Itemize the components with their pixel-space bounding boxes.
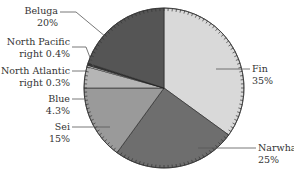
label-narwhal: Narwhal 25% — [258, 142, 294, 166]
label-sei-pct: 15% — [30, 133, 70, 145]
label-north-atlantic-name: North Atlantic — [0, 65, 70, 77]
label-beluga-pct: 20% — [20, 17, 58, 29]
label-beluga-name: Beluga — [20, 5, 58, 17]
label-blue-name: Blue — [30, 93, 70, 105]
label-sei-name: Sei — [30, 121, 70, 133]
label-beluga: Beluga 20% — [20, 5, 58, 29]
label-north-pacific: North Pacific right 0.4% — [2, 36, 70, 60]
label-north-atlantic-pct: right 0.3% — [0, 77, 70, 89]
label-north-pacific-name: North Pacific — [2, 36, 70, 48]
label-sei: Sei 15% — [30, 121, 70, 145]
label-north-atlantic: North Atlantic right 0.3% — [0, 65, 70, 89]
label-fin: Fin 35% — [252, 63, 273, 87]
label-blue-pct: 4.3% — [30, 105, 70, 117]
label-blue: Blue 4.3% — [30, 93, 70, 117]
label-north-pacific-pct: right 0.4% — [2, 48, 70, 60]
label-fin-pct: 35% — [252, 75, 273, 87]
label-narwhal-pct: 25% — [258, 154, 294, 166]
label-fin-name: Fin — [252, 63, 273, 75]
label-narwhal-name: Narwhal — [258, 142, 294, 154]
